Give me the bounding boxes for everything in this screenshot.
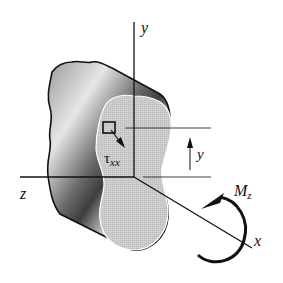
- y-axis-label: y: [139, 19, 149, 37]
- z-axis-label: z: [19, 185, 27, 202]
- moment-label: Mz: [233, 182, 252, 201]
- beam-bending-diagram: y τxx y z x Mz: [0, 0, 283, 283]
- moment-arrow-icon: [198, 193, 246, 262]
- y-dimension-label: y: [195, 146, 204, 162]
- y-dimension-arrow-icon: [187, 137, 193, 170]
- x-axis-label: x: [253, 232, 261, 249]
